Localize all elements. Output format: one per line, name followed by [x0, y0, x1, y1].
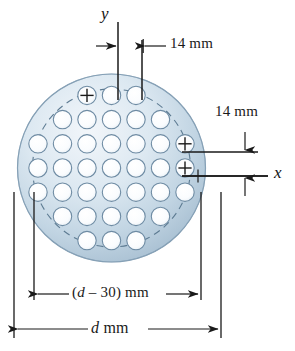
y-axis-label: y: [101, 4, 109, 24]
plate-hole: [127, 159, 145, 177]
plate-hole: [102, 110, 120, 128]
plate-hole: [29, 183, 47, 201]
inner-dimension-label: (d – 30) mm: [72, 284, 149, 301]
plate-hole: [102, 183, 120, 201]
plate-hole: [78, 135, 96, 153]
plate-hole: [151, 159, 169, 177]
right-dimension-label: 14 mm: [215, 103, 258, 120]
plate-hole: [102, 207, 120, 225]
plate-hole: [127, 231, 145, 249]
plate-hole: [53, 159, 71, 177]
outer-dim-rest: mm: [99, 319, 129, 336]
plate-hole: [151, 135, 169, 153]
plate-hole: [78, 207, 96, 225]
plate-hole: [151, 183, 169, 201]
inner-dim-rest: – 30) mm: [85, 284, 149, 300]
plate-hole: [102, 231, 120, 249]
perforated-plate-figure: y x 14 mm 14 mm (d – 30) mm d mm: [0, 0, 295, 351]
plate-hole: [78, 183, 96, 201]
plate-hole: [78, 110, 96, 128]
plate-hole: [29, 159, 47, 177]
plate-hole: [78, 159, 96, 177]
plate-hole: [78, 231, 96, 249]
plate-hole: [127, 135, 145, 153]
outer-dim-variable: d: [91, 319, 99, 336]
top-dimension-label: 14 mm: [170, 35, 213, 52]
plate-hole: [102, 135, 120, 153]
plate-hole: [127, 110, 145, 128]
plate-hole: [29, 135, 47, 153]
plate-hole: [151, 110, 169, 128]
outer-dimension-label: d mm: [91, 319, 129, 337]
plate-hole: [102, 159, 120, 177]
plate-hole: [127, 207, 145, 225]
plate-hole: [127, 183, 145, 201]
plate-hole: [151, 207, 169, 225]
plate-hole: [53, 135, 71, 153]
top-dimension-arrows: [96, 39, 166, 53]
plate-hole: [53, 110, 71, 128]
inner-dim-variable: d: [77, 284, 85, 300]
x-axis-label: x: [274, 163, 282, 183]
plate-hole: [176, 183, 194, 201]
plate-hole: [53, 207, 71, 225]
plate-hole: [53, 183, 71, 201]
